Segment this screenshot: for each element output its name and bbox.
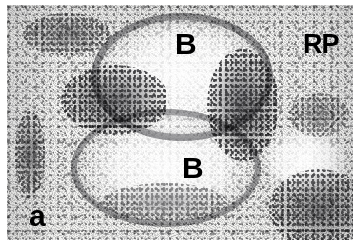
cluster-left-edge-streak: [15, 111, 45, 199]
cluster-bottom-centre-arc: [103, 183, 227, 221]
cluster-right-mid: [289, 93, 349, 137]
figure-panel: B RP B a: [0, 0, 360, 246]
annotation-label-rp: RP: [303, 31, 339, 58]
annotation-label-b-lower: B: [182, 153, 204, 183]
panel-letter-label: a: [29, 201, 46, 231]
micrograph-image: B RP B a: [7, 5, 353, 240]
cluster-top-left: [23, 13, 111, 55]
annotation-label-b-upper: B: [175, 29, 197, 59]
cluster-left-central: [61, 65, 169, 135]
cluster-right-central: [207, 49, 279, 161]
